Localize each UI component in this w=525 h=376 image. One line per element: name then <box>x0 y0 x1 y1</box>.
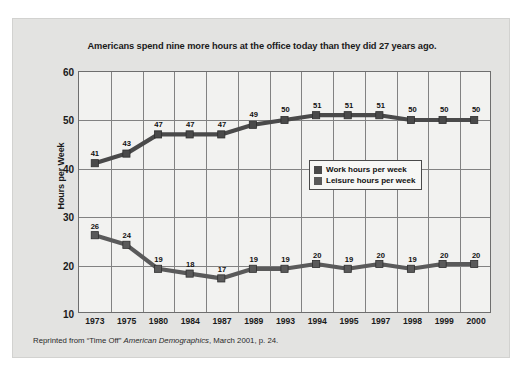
chart-legend: Work hours per weekLeisure hours per wee… <box>309 160 422 190</box>
data-point-label: 49 <box>249 110 257 119</box>
series-marker <box>186 131 193 138</box>
data-point-label: 50 <box>408 105 416 114</box>
data-point-label: 18 <box>186 260 194 269</box>
data-point-label: 19 <box>345 255 353 264</box>
data-point-label: 20 <box>313 251 321 260</box>
data-point-label: 20 <box>377 251 385 260</box>
series-marker <box>123 150 130 157</box>
series-marker <box>281 265 288 272</box>
data-point-label: 50 <box>440 105 448 114</box>
series-marker <box>344 265 351 272</box>
x-axis-tick-label: 1993 <box>276 316 295 326</box>
series-marker <box>249 121 256 128</box>
x-axis-tick-label: 1975 <box>117 316 136 326</box>
series-marker <box>313 260 320 267</box>
series-marker <box>471 116 478 123</box>
series-marker <box>218 131 225 138</box>
series-marker <box>313 112 320 119</box>
legend-entry-label: Leisure hours per week <box>326 176 415 185</box>
chart-title: Americans spend nine more hours at the o… <box>13 41 511 51</box>
chart-page: Americans spend nine more hours at the o… <box>0 0 525 376</box>
x-axis-tick-label: 1997 <box>371 316 390 326</box>
series-marker <box>249 265 256 272</box>
chart-panel: Americans spend nine more hours at the o… <box>12 18 510 358</box>
x-axis-tick-label: 1973 <box>85 316 104 326</box>
x-axis-tick-label: 1987 <box>212 316 231 326</box>
series-marker <box>439 116 446 123</box>
source-note-prefix: Reprinted from “Time Off” <box>33 336 124 345</box>
y-axis-tick-label: 20 <box>63 260 74 271</box>
x-axis-tick-label: 1995 <box>339 316 358 326</box>
data-point-label: 50 <box>281 105 289 114</box>
series-marker <box>376 112 383 119</box>
source-note: Reprinted from “Time Off” American Demog… <box>33 336 278 345</box>
series-marker <box>439 260 446 267</box>
data-point-label: 47 <box>186 120 194 129</box>
legend-swatch-icon <box>314 177 322 185</box>
data-point-label: 43 <box>122 139 130 148</box>
legend-entry: Work hours per week <box>314 164 415 175</box>
data-point-label: 41 <box>91 149 99 158</box>
x-axis-tick-label: 2000 <box>467 316 486 326</box>
series-marker <box>281 116 288 123</box>
y-axis-tick-label: 60 <box>63 67 74 78</box>
data-point-label: 20 <box>472 251 480 260</box>
series-marker <box>344 112 351 119</box>
data-point-label: 19 <box>249 255 257 264</box>
y-axis-tick-label: 10 <box>63 309 74 320</box>
series-marker <box>218 275 225 282</box>
source-note-suffix: , March 2001, p. 24. <box>209 336 278 345</box>
legend-entry: Leisure hours per week <box>314 175 415 186</box>
x-axis-tick-label: 1989 <box>244 316 263 326</box>
data-point-label: 19 <box>408 255 416 264</box>
x-axis-tick-label: 1984 <box>181 316 200 326</box>
series-marker <box>154 265 161 272</box>
series-marker <box>407 265 414 272</box>
data-point-label: 47 <box>218 120 226 129</box>
series-marker <box>186 270 193 277</box>
data-point-label: 19 <box>154 255 162 264</box>
data-point-label: 19 <box>281 255 289 264</box>
series-marker <box>123 241 130 248</box>
data-point-label: 17 <box>218 265 226 274</box>
data-point-label: 51 <box>313 101 321 110</box>
series-marker <box>376 260 383 267</box>
data-point-label: 47 <box>154 120 162 129</box>
data-point-label: 20 <box>440 251 448 260</box>
data-point-label: 26 <box>91 222 99 231</box>
x-axis-tick-label: 1980 <box>149 316 168 326</box>
data-point-label: 50 <box>472 105 480 114</box>
data-point-label: 51 <box>377 101 385 110</box>
legend-entry-label: Work hours per week <box>326 165 407 174</box>
series-marker <box>471 260 478 267</box>
source-note-publication: American Demographics <box>124 336 209 345</box>
plot-area: 102030405060 197319751980198419871989199… <box>78 71 491 313</box>
data-point-label: 24 <box>122 231 130 240</box>
series-marker <box>91 160 98 167</box>
series-marker <box>154 131 161 138</box>
series-marker <box>91 232 98 239</box>
x-axis-tick-label: 1998 <box>403 316 422 326</box>
x-axis-tick-label: 1999 <box>435 316 454 326</box>
data-point-label: 51 <box>345 101 353 110</box>
y-axis-tick-label: 40 <box>63 163 74 174</box>
series-marker <box>407 116 414 123</box>
legend-swatch-icon <box>314 166 322 174</box>
y-axis-tick-label: 50 <box>63 115 74 126</box>
x-axis-tick-label: 1994 <box>308 316 327 326</box>
y-axis-tick-label: 30 <box>63 212 74 223</box>
